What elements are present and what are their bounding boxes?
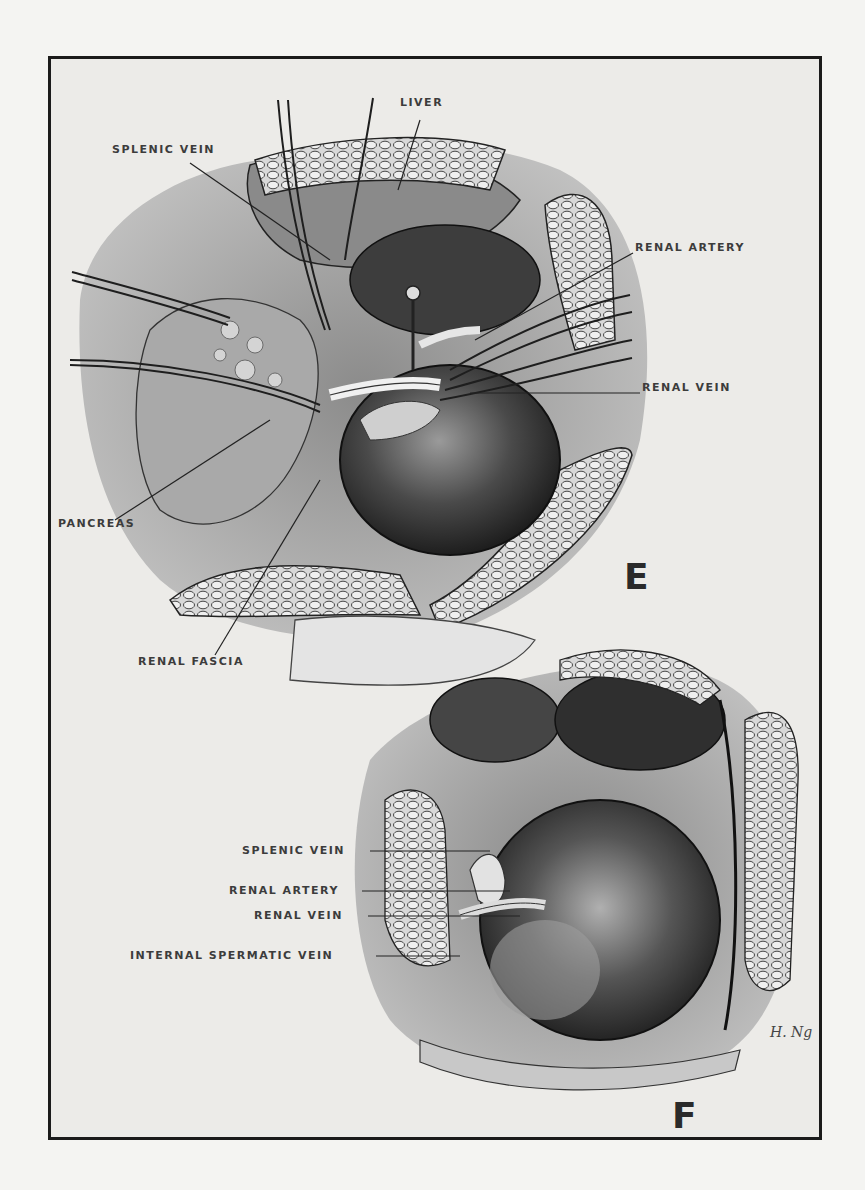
label-renal-vein-e: RENAL VEIN	[642, 381, 731, 394]
panel-f-illustration	[355, 650, 798, 1090]
label-liver: LIVER	[400, 96, 443, 109]
label-internal-spermatic-vein: INTERNAL SPERMATIC VEIN	[130, 949, 333, 962]
panel-e-illustration	[70, 98, 647, 685]
label-renal-artery-e: RENAL ARTERY	[635, 241, 745, 254]
label-splenic-vein-f: SPLENIC VEIN	[242, 844, 345, 857]
label-renal-vein-f: RENAL VEIN	[254, 909, 343, 922]
label-renal-fascia: RENAL FASCIA	[138, 655, 244, 668]
label-pancreas: PANCREAS	[58, 517, 135, 530]
panel-letter-f: F	[672, 1095, 697, 1136]
label-splenic-vein-e: SPLENIC VEIN	[112, 143, 215, 156]
label-renal-artery-f: RENAL ARTERY	[229, 884, 339, 897]
artist-signature: H. Ng	[770, 1024, 812, 1040]
panel-letter-e: E	[624, 556, 649, 597]
surgical-illustration	[0, 0, 865, 1190]
